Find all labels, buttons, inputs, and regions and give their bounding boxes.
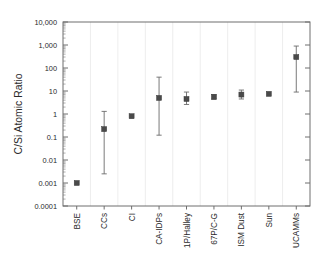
y-tick-label: 1,000: [39, 41, 58, 50]
y-tick-label: 100: [45, 64, 57, 73]
category-label: Sun: [265, 213, 274, 228]
x-axis-category-labels: BSECCsCICA-IDPs1P/Halley67P/C-GISM DustS…: [73, 212, 302, 248]
category-label: 67P/C-G: [210, 213, 219, 245]
category-label: UCAMMs: [292, 213, 301, 248]
y-tick-label: 0.001: [39, 179, 58, 188]
y-tick-label: 10,000: [34, 18, 57, 27]
data-point-marker: [102, 127, 107, 132]
x-axis-ticks: [77, 206, 297, 210]
data-point-marker: [157, 95, 162, 100]
category-label: 1P/Halley: [183, 212, 192, 248]
y-axis-title: C/Si Atomic Ratio: [13, 73, 24, 154]
category-label: BSE: [73, 212, 82, 229]
y-tick-label: 10: [49, 87, 57, 96]
y-tick-label: 0.0001: [34, 202, 57, 211]
chart-figure: 10,0001,0001001010.10.010.0010.0001 BSEC…: [0, 0, 330, 262]
y-tick-label: 0.1: [47, 133, 57, 142]
data-point-group: [74, 181, 79, 186]
category-label: CI: [128, 213, 137, 221]
category-label: ISM Dust: [237, 212, 246, 246]
data-point-marker: [211, 94, 216, 99]
plot-background: [63, 22, 310, 206]
data-point-marker: [266, 91, 271, 96]
y-tick-label: 0.01: [43, 156, 57, 165]
svg-text:C/Si Atomic Ratio: C/Si Atomic Ratio: [13, 73, 24, 154]
data-point-marker: [129, 114, 134, 119]
y-tick-label: 1: [53, 110, 57, 119]
data-point-group: [266, 91, 271, 96]
data-point-group: [129, 114, 134, 119]
data-point-marker: [74, 181, 79, 186]
category-label: CCs: [100, 213, 109, 229]
data-point-marker: [184, 96, 189, 101]
data-point-group: [211, 94, 216, 99]
category-label: CA-IDPs: [155, 213, 164, 245]
data-point-marker: [239, 92, 244, 97]
data-point-marker: [294, 55, 299, 60]
chart-canvas: 10,0001,0001001010.10.010.0010.0001 BSEC…: [0, 0, 330, 262]
y-axis-tick-labels: 10,0001,0001001010.10.010.0010.0001: [34, 18, 57, 211]
